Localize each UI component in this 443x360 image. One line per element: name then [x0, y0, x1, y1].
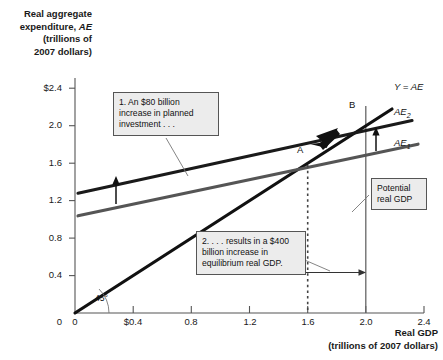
y-tick-label-1.2: 1.2 [22, 194, 62, 205]
y-tick-label-2.0: 2.0 [22, 119, 62, 130]
line-label-ae2-subscript: 2 [407, 112, 411, 119]
chart-figure: Real aggregateexpenditure, AE(trillions … [0, 0, 443, 360]
x-tick-label-0.4: $0.4 [113, 316, 153, 327]
data-point-label-a: A [297, 144, 303, 155]
line-label-ae1-subscript: 1 [407, 143, 411, 150]
y-tick-label-0.4: 0.4 [22, 269, 62, 280]
line-label-ae1-text: AE [394, 137, 407, 148]
y-axis-title: Real aggregateexpenditure, AE(trillions … [0, 8, 92, 58]
data-point-label-b: B [349, 99, 355, 110]
line-label-ae2-text: AE [394, 106, 407, 117]
y-tick-label-1.6: 1.6 [22, 157, 62, 168]
callout-planned-investment: 1. An $80 billion increase in planned in… [113, 92, 219, 136]
x-tick-label-0: 0 [55, 316, 95, 327]
callout-equilibrium-gdp: 2. . . . results in a $400 billion incre… [196, 231, 306, 275]
line-label-y-equals-ae: Y = AE [394, 81, 423, 92]
line-label-ae1: AE1 [394, 137, 411, 150]
angle-label-45-degrees: 45° [95, 293, 108, 303]
x-axis-ticks [133, 306, 424, 313]
x-tick-label-0.8: 0.8 [171, 316, 211, 327]
x-axis-title: Real GDP(trillions of 2007 dollars) [286, 327, 438, 352]
line-45-degree-y-equals-ae [75, 109, 392, 313]
y-axis-ticks [69, 88, 75, 275]
x-tick-label-1.2: 1.2 [230, 316, 270, 327]
line-label-ae2: AE2 [394, 106, 411, 119]
shift-arrow-investment [112, 176, 119, 204]
leader-line-callout-3 [352, 195, 369, 212]
x-tick-label-1.6: 1.6 [288, 316, 328, 327]
shift-arrow-right [372, 127, 379, 151]
x-tick-label-2.0: 2.0 [346, 316, 386, 327]
y-tick-label-0.8: 0.8 [22, 232, 62, 243]
y-tick-label-2.4: $2.4 [22, 82, 62, 93]
callout-potential-real-gdp: Potential real GDP [371, 178, 427, 210]
x-tick-label-2.4: 2.4 [404, 316, 443, 327]
